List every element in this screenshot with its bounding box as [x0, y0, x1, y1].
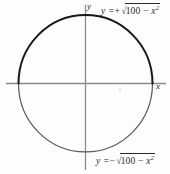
radical-sign-icon: √ [121, 6, 126, 17]
upper-eq-operator: − [143, 6, 149, 16]
upper-semicircle-equation-label: y =+√100 − x2 [101, 3, 160, 16]
x-axis-label: x [156, 82, 160, 91]
y-axis-label: y [87, 2, 91, 11]
lower-eq-constant: 100 [121, 156, 136, 166]
lower-semicircle-equation-label: y =−√100 − x2 [96, 153, 155, 166]
scan-artifact [119, 87, 121, 92]
lower-eq-radical: √100 − x2 [115, 153, 155, 166]
upper-eq-exponent: 2 [156, 4, 159, 11]
radical-sign-icon: √ [116, 156, 121, 167]
upper-eq-radicand: 100 − x2 [125, 3, 160, 16]
upper-eq-constant: 100 [126, 6, 141, 16]
upper-eq-prefix: y = [101, 6, 115, 16]
upper-eq-radical: √100 − x2 [120, 3, 160, 16]
lower-eq-prefix: y = [96, 156, 110, 166]
lower-eq-operator: − [138, 156, 144, 166]
circle-graph-figure: y x y =+√100 − x2 y =−√100 − x2 [0, 0, 170, 174]
lower-eq-radicand: 100 − x2 [120, 153, 155, 166]
graph-canvas [0, 0, 170, 174]
lower-eq-exponent: 2 [151, 154, 154, 161]
